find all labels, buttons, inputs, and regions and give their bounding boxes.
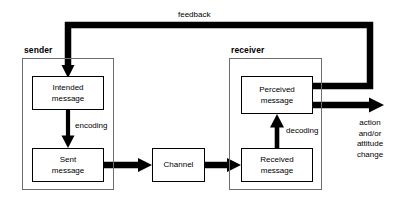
communication-process-diagram: sender receiver Intendedmessage Sentmess… [0,0,397,206]
group-sender-label: sender [24,45,52,55]
node-sent-message: Sentmessage [32,148,104,182]
outcome-arrow [313,98,384,113]
node-intended-message: Intendedmessage [32,76,104,110]
node-channel-label: Channel [164,159,194,171]
edge-label-feedback: feedback [178,10,210,19]
node-channel: Channel [152,148,205,182]
edge-label-encoding: encoding [75,120,107,131]
node-intended-message-label: Intendedmessage [52,82,84,105]
group-receiver-label: receiver [231,45,264,55]
node-sent-message-label: Sentmessage [52,154,84,177]
outcome-label: actionand/orattitudechange [345,118,395,160]
edge-label-decoding: decoding [286,125,318,136]
node-received-message-label: Receivedmessage [260,154,293,177]
node-perceived-message-label: Perceivedmessage [259,84,295,107]
node-received-message: Receivedmessage [241,148,313,182]
node-perceived-message: Perceivedmessage [241,76,313,114]
